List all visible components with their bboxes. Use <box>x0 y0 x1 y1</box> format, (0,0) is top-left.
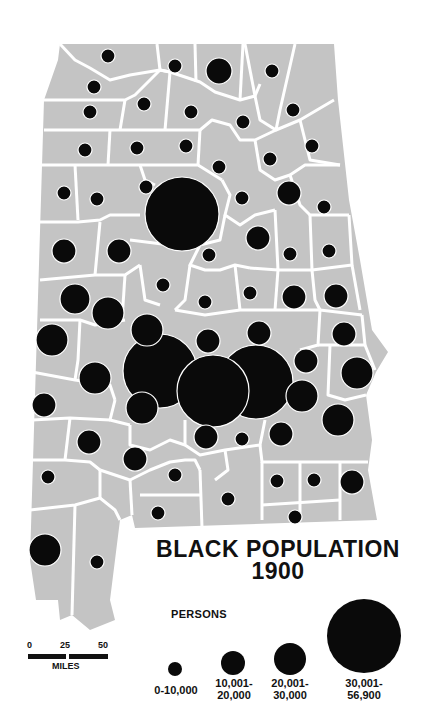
county-circle[interactable] <box>243 286 257 300</box>
legend-label-class-3: 20,001- 30,000 <box>262 677 318 701</box>
county-circle[interactable] <box>179 139 193 153</box>
county-circle[interactable] <box>168 468 182 482</box>
county-circle[interactable] <box>177 355 249 427</box>
county-circle[interactable] <box>340 470 364 494</box>
county-circle[interactable] <box>184 105 198 119</box>
county-circle[interactable] <box>317 200 331 214</box>
legend-label-line: 20,001- <box>262 677 318 689</box>
map-title: BLACK POPULATION 1900 <box>132 538 424 582</box>
county-circle[interactable] <box>78 143 92 157</box>
county-circle[interactable] <box>212 160 226 174</box>
county-circle[interactable] <box>198 295 212 309</box>
county-circle[interactable] <box>57 186 71 200</box>
legend-label-line: 20,000 <box>206 689 262 701</box>
county-circle[interactable] <box>235 432 249 446</box>
scale-tick-0: 0 <box>27 640 32 650</box>
county-circle[interactable] <box>322 404 354 436</box>
county-circle[interactable] <box>32 393 56 417</box>
county-circle[interactable] <box>263 152 277 166</box>
scale-unit: MILES <box>52 661 80 671</box>
county-circle[interactable] <box>123 447 147 471</box>
county-circle[interactable] <box>92 297 124 329</box>
county-circle[interactable] <box>139 180 153 194</box>
county-circle[interactable] <box>282 285 306 309</box>
legend-label-line: 10,001- <box>206 677 262 689</box>
legend-circle-xlarge <box>327 599 401 673</box>
title-line-1: BLACK POPULATION <box>132 538 424 560</box>
scale-bar: 0 25 50 MILES <box>25 640 115 680</box>
county-circle[interactable] <box>131 314 163 346</box>
county-circle[interactable] <box>168 59 182 73</box>
legend-label-class-2: 10,001- 20,000 <box>206 677 262 701</box>
county-circle[interactable] <box>107 239 131 263</box>
county-circle[interactable] <box>269 422 293 446</box>
legend-label-line: 56,900 <box>336 689 392 701</box>
county-circle[interactable] <box>101 49 115 63</box>
county-circle[interactable] <box>60 284 90 314</box>
county-circle[interactable] <box>29 534 61 566</box>
county-circle[interactable] <box>305 139 319 153</box>
county-circle[interactable] <box>247 321 271 345</box>
county-circle[interactable] <box>288 510 302 524</box>
county-circle[interactable] <box>294 349 318 373</box>
legend-circle-medium <box>221 651 245 675</box>
title-line-2: 1900 <box>132 560 424 582</box>
county-circle[interactable] <box>286 103 300 117</box>
county-circle[interactable] <box>130 141 144 155</box>
county-circle[interactable] <box>41 470 55 484</box>
county-circle[interactable] <box>156 278 170 292</box>
county-circle[interactable] <box>265 64 279 78</box>
county-circle[interactable] <box>206 58 232 84</box>
county-circle[interactable] <box>332 322 356 346</box>
county-circle[interactable] <box>235 191 249 205</box>
county-circle[interactable] <box>90 192 104 206</box>
county-circle[interactable] <box>194 425 218 449</box>
county-circle[interactable] <box>90 555 104 569</box>
county-circle[interactable] <box>79 362 111 394</box>
county-circle[interactable] <box>307 473 321 487</box>
county-circle[interactable] <box>322 244 336 258</box>
legend-label-line: 30,001- <box>336 677 392 689</box>
county-circle[interactable] <box>270 474 284 488</box>
county-circle[interactable] <box>286 380 318 412</box>
county-circle[interactable] <box>341 357 373 389</box>
county-circle[interactable] <box>36 324 68 356</box>
county-circle[interactable] <box>145 177 219 251</box>
county-circle[interactable] <box>126 392 158 424</box>
legend-heading: PERSONS <box>171 608 227 620</box>
county-circle[interactable] <box>246 226 270 250</box>
county-circle[interactable] <box>236 115 250 129</box>
scale-tick-50: 50 <box>98 640 108 650</box>
county-circle[interactable] <box>87 80 101 94</box>
county-circle[interactable] <box>77 430 101 454</box>
county-circle[interactable] <box>137 97 151 111</box>
county-circle[interactable] <box>83 105 97 119</box>
county-circle[interactable] <box>151 506 165 520</box>
legend-label-class-1: 0-10,000 <box>148 684 204 696</box>
county-circle[interactable] <box>52 239 76 263</box>
legend-circle-large <box>274 643 306 675</box>
county-circle[interactable] <box>283 247 297 261</box>
scale-segment-1 <box>28 654 66 659</box>
legend-label-line: 30,000 <box>262 689 318 701</box>
county-circle[interactable] <box>202 248 216 262</box>
legend-label-class-4: 30,001- 56,900 <box>336 677 392 701</box>
legend-circle-small <box>168 662 182 676</box>
county-circle[interactable] <box>277 181 301 205</box>
scale-segment-2 <box>69 654 108 659</box>
county-circle[interactable] <box>324 284 348 308</box>
county-circle[interactable] <box>221 492 235 506</box>
legend-label-line: 0-10,000 <box>148 684 204 696</box>
scale-tick-25: 25 <box>60 640 70 650</box>
county-circle[interactable] <box>196 329 220 353</box>
